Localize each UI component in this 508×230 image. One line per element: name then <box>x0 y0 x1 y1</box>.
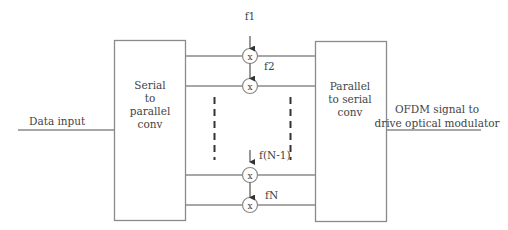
svg-text:x: x <box>247 171 252 181</box>
subcarrier-branch-2: x f2 <box>185 60 315 94</box>
svg-text:x: x <box>247 52 252 62</box>
p2s-label-line-1: Parallel <box>330 80 371 92</box>
s2p-label-line-3: parallel <box>130 105 171 117</box>
subcarrier-label-f2: f2 <box>264 60 275 72</box>
svg-text:x: x <box>247 201 252 211</box>
s2p-label-line-1: Serial <box>134 79 166 91</box>
serial-to-parallel-block <box>115 41 186 221</box>
output-label-line-1: OFDM signal to <box>395 103 479 115</box>
s2p-label-line-4: conv <box>138 118 163 130</box>
p2s-label-line-3: conv <box>338 106 363 118</box>
ofdm-diagram: Data input Serial to parallel conv Paral… <box>0 0 508 230</box>
subcarrier-branch-n-minus-1: x f(N-1) <box>185 149 315 183</box>
s2p-label-line-2: to <box>145 92 156 104</box>
subcarrier-label-fn-minus-1: f(N-1) <box>259 149 291 161</box>
svg-text:x: x <box>247 82 252 92</box>
subcarrier-label-f1: f1 <box>245 10 256 22</box>
subcarrier-label-fn: fN <box>265 189 278 201</box>
parallel-to-serial-block <box>316 42 387 222</box>
output-label-line-2: drive optical modulator <box>375 117 501 129</box>
p2s-label-line-2: to serial <box>328 93 372 105</box>
subcarrier-branch-1: x f1 <box>185 10 315 64</box>
subcarrier-branch-n: x fN <box>185 183 315 213</box>
data-input-label: Data input <box>29 115 86 127</box>
